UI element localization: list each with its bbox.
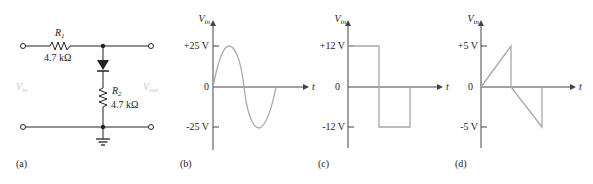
vout-bottom-terminal xyxy=(149,125,154,130)
r1-value: 4.7 kΩ xyxy=(44,52,71,63)
vin-top-terminal xyxy=(21,44,26,49)
panel-label-b: (b) xyxy=(180,158,192,170)
panel-label-d: (d) xyxy=(455,158,467,170)
vout-label: Vout xyxy=(143,81,159,94)
chart-square: Vin +12 V 0 -12 V t (c) xyxy=(318,13,449,170)
circuit-diagram: R1 4.7 kΩ R2 4.7 kΩ Vin Vout (a) xyxy=(16,27,159,170)
ytick-top: +25 V xyxy=(184,40,210,51)
panel-label-c: (c) xyxy=(318,158,329,170)
chart-sine: Vin +25 V 0 -25 V t (b) xyxy=(180,13,315,170)
r2-label: R2 xyxy=(111,85,122,98)
x-axis-label: t xyxy=(446,81,449,92)
figure-canvas: R1 4.7 kΩ R2 4.7 kΩ Vin Vout (a) Vin +25… xyxy=(0,0,593,184)
ytick-bottom: -25 V xyxy=(186,121,210,132)
vout-top-terminal xyxy=(149,44,154,49)
r1-label: R1 xyxy=(54,27,65,40)
vin-bottom-terminal xyxy=(21,125,26,130)
ytick-zero: 0 xyxy=(204,81,209,92)
resistor-r1-icon xyxy=(50,42,70,50)
diode-icon xyxy=(97,60,109,70)
ytick-bottom: -5 V xyxy=(460,121,479,132)
y-axis-label: Vin xyxy=(198,13,210,26)
panel-label-a: (a) xyxy=(16,158,27,170)
x-axis-label: t xyxy=(579,81,582,92)
resistor-r2-icon xyxy=(99,88,107,107)
r2-value: 4.7 kΩ xyxy=(111,99,138,110)
x-axis-label: t xyxy=(312,81,315,92)
ytick-zero: 0 xyxy=(468,81,473,92)
ytick-top: +12 V xyxy=(320,40,346,51)
ytick-top: +5 V xyxy=(458,40,479,51)
vin-label: Vin xyxy=(16,81,28,94)
y-axis-label: Vin xyxy=(334,13,346,26)
ground-icon xyxy=(96,127,110,145)
y-axis-label: Vin xyxy=(467,13,479,26)
chart-sawtooth: Vin +5 V 0 -5 V t (d) xyxy=(455,13,582,170)
ytick-zero: 0 xyxy=(335,81,340,92)
ytick-bottom: -12 V xyxy=(322,121,346,132)
